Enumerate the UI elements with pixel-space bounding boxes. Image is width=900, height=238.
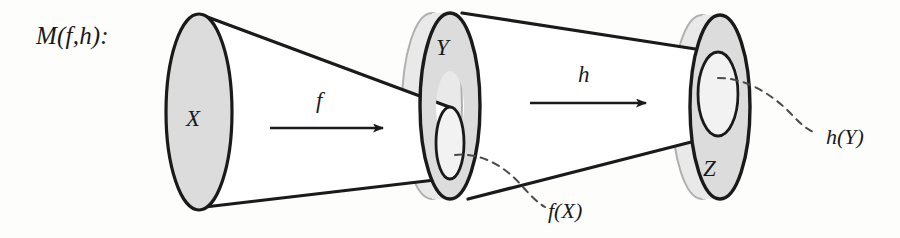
figure-root: M(f,h): X Y Z f h f(X) h(Y) bbox=[0, 0, 900, 238]
hy-inner-disc bbox=[698, 52, 738, 136]
z-object-label: Z bbox=[703, 156, 716, 182]
cone-y-to-hy bbox=[462, 13, 703, 199]
fx-image-label: f(X) bbox=[548, 198, 582, 224]
x-object-label: X bbox=[186, 106, 200, 132]
f-map-label: f bbox=[316, 88, 322, 114]
y-front-face bbox=[420, 13, 480, 199]
fx-inner-disc bbox=[436, 107, 464, 179]
h-map-label: h bbox=[578, 62, 590, 88]
mapping-cone-diagram bbox=[0, 0, 900, 238]
z-front-face bbox=[690, 15, 750, 199]
figure-title-label: M(f,h): bbox=[36, 22, 109, 50]
y-object-label: Y bbox=[436, 35, 449, 61]
hy-image-label: h(Y) bbox=[826, 124, 864, 150]
